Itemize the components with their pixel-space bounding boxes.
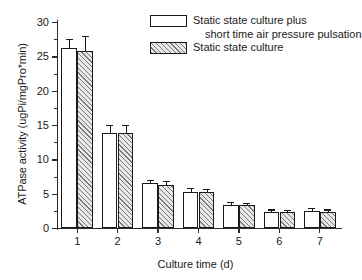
y-tick-20: 20 — [52, 91, 57, 92]
y-tick-25: 25 — [52, 56, 57, 57]
x-tick-5 — [238, 228, 239, 233]
error-cap-series1-day3 — [163, 181, 170, 182]
error-cap-series1-day2 — [122, 125, 129, 126]
y-tick-label-15: 15 — [37, 119, 49, 131]
error-cap-series1-day1 — [82, 36, 89, 37]
y-tick-30: 30 — [52, 22, 57, 23]
bar-series1-day7 — [320, 212, 336, 228]
y-tick-label-5: 5 — [43, 188, 49, 200]
legend-item-0: Static state culture plus — [150, 14, 362, 28]
bar-series1-day2 — [118, 133, 134, 228]
y-tick-10: 10 — [52, 159, 57, 160]
y-tick-minor-2.5 — [54, 211, 58, 212]
x-tick-label-5: 5 — [236, 235, 242, 247]
y-tick-label-20: 20 — [37, 85, 49, 97]
legend-item-1: Static state culture — [150, 41, 362, 55]
y-tick-label-25: 25 — [37, 50, 49, 62]
bar-series1-day4 — [199, 192, 215, 228]
x-tick-label-4: 4 — [195, 235, 201, 247]
error-cap-series1-day5 — [243, 203, 250, 204]
error-cap-series0-day3 — [147, 180, 154, 181]
error-cap-series0-day2 — [106, 125, 113, 126]
y-tick-label-30: 30 — [37, 16, 49, 28]
bar-series1-day6 — [280, 212, 296, 228]
bar-series1-day1 — [77, 51, 93, 228]
bar-series0-day2 — [102, 133, 118, 228]
error-stem-series1-day1 — [85, 37, 86, 51]
y-axis-label: ATPase activity (ugPi/mgPro*min) — [16, 24, 28, 224]
legend-label-0: Static state culture plus — [193, 14, 307, 28]
y-tick-minor-17.5 — [54, 108, 58, 109]
legend-label-1: Static state culture — [193, 41, 284, 55]
x-axis-line — [57, 228, 342, 229]
bar-series0-day5 — [223, 205, 239, 228]
x-axis-label: Culture time (d) — [48, 258, 343, 270]
error-stem-series1-day5 — [247, 204, 248, 205]
bar-series0-day7 — [304, 211, 320, 228]
error-stem-series1-day3 — [166, 182, 167, 184]
bar-series0-day1 — [61, 48, 77, 228]
bar-series1-day5 — [239, 205, 255, 228]
x-tick-label-6: 6 — [276, 235, 282, 247]
error-stem-series0-day2 — [110, 126, 111, 133]
bar-series1-day3 — [158, 185, 174, 228]
error-stem-series0-day6 — [271, 211, 272, 212]
y-tick-5: 5 — [52, 194, 57, 195]
legend-label-0-line2: short time air pressure pulsation — [205, 28, 362, 42]
error-cap-series0-day4 — [187, 188, 194, 189]
x-tick-label-2: 2 — [115, 235, 121, 247]
error-stem-series1-day4 — [207, 190, 208, 192]
error-cap-series0-day6 — [268, 209, 275, 210]
error-cap-series0-day5 — [227, 202, 234, 203]
bar-series0-day3 — [142, 183, 158, 228]
x-tick-2 — [117, 228, 118, 233]
error-cap-series0-day1 — [66, 39, 73, 40]
legend-swatch-hatched — [150, 42, 187, 54]
x-tick-label-3: 3 — [155, 235, 161, 247]
error-stem-series1-day7 — [328, 211, 329, 212]
error-stem-series1-day6 — [287, 211, 288, 212]
x-tick-3 — [157, 228, 158, 233]
x-tick-1 — [77, 228, 78, 233]
bar-series0-day6 — [264, 212, 280, 228]
y-tick-label-0: 0 — [43, 222, 49, 234]
error-stem-series0-day7 — [312, 209, 313, 210]
y-tick-label-10: 10 — [37, 153, 49, 165]
bar-series0-day4 — [183, 192, 199, 228]
chart-legend: Static state culture plus short time air… — [150, 14, 362, 55]
error-stem-series0-day3 — [150, 181, 151, 184]
y-tick-minor-27.5 — [54, 39, 58, 40]
x-tick-6 — [279, 228, 280, 233]
error-stem-series0-day1 — [69, 40, 70, 48]
error-stem-series0-day4 — [191, 189, 192, 191]
y-tick-0: 0 — [52, 228, 57, 229]
error-cap-series0-day7 — [308, 208, 315, 209]
y-tick-minor-7.5 — [54, 177, 58, 178]
x-tick-label-7: 7 — [317, 235, 323, 247]
y-tick-minor-22.5 — [54, 74, 58, 75]
x-tick-7 — [319, 228, 320, 233]
x-tick-4 — [198, 228, 199, 233]
y-tick-minor-12.5 — [54, 142, 58, 143]
error-cap-series1-day4 — [203, 189, 210, 190]
y-tick-15: 15 — [52, 125, 57, 126]
x-tick-label-1: 1 — [74, 235, 80, 247]
error-stem-series1-day2 — [126, 126, 127, 134]
legend-swatch-open — [150, 15, 187, 27]
error-cap-series1-day6 — [284, 210, 291, 211]
error-stem-series0-day5 — [231, 203, 232, 205]
error-cap-series1-day7 — [324, 209, 331, 210]
